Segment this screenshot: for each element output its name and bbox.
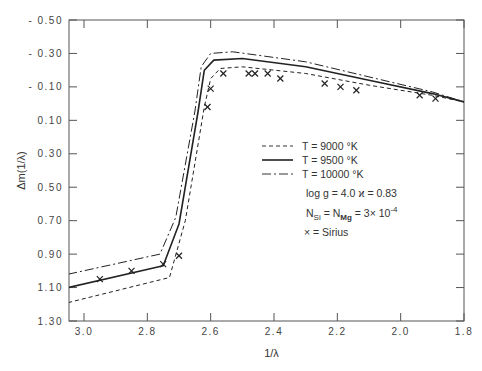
sirius-marker xyxy=(176,253,182,259)
y-tick-label: 1.10 xyxy=(38,282,63,293)
legend: T = 9000 °K T = 9500 °K T = 10000 °K log… xyxy=(262,140,398,238)
chart: - 0.50- 0.30- 0.100.100.300.500.700.901.… xyxy=(0,0,482,371)
y-tick-label: - 0.10 xyxy=(28,81,63,92)
sirius-marker xyxy=(246,71,252,77)
sirius-marker xyxy=(205,104,211,110)
x-tick-label: 2.4 xyxy=(265,326,283,337)
sirius-marker xyxy=(417,92,423,98)
y-tick-label: 0.90 xyxy=(38,249,63,260)
legend-params: log g = 4.0 ϰ = 0.83 xyxy=(306,187,397,199)
plot-frame xyxy=(69,20,464,321)
sirius-marker xyxy=(265,71,271,77)
legend-label-9500: T = 9500 °K xyxy=(302,154,358,166)
series-line xyxy=(68,52,464,274)
sirius-marker xyxy=(338,84,344,90)
y-tick-label: 0.70 xyxy=(38,215,63,226)
series-line xyxy=(68,59,464,288)
x-tick-label: 2.8 xyxy=(138,326,156,337)
y-tick-label: - 0.50 xyxy=(28,15,63,26)
x-tick-label: 2.6 xyxy=(201,326,219,337)
y-tick-label: - 0.30 xyxy=(28,48,63,59)
x-tick-label: 1.8 xyxy=(455,326,473,337)
x-axis-label: 1/λ xyxy=(264,347,279,359)
x-tick-label: 2.0 xyxy=(391,326,409,337)
x-tick-label: 3.0 xyxy=(75,326,93,337)
legend-label-9000: T = 9000 °K xyxy=(302,140,358,152)
legend-abundance: NSi = NMg = 3× 10-4 xyxy=(306,205,398,222)
sirius-marker xyxy=(277,76,283,82)
sirius-marker xyxy=(220,71,226,77)
y-tick-label: 0.10 xyxy=(38,115,63,126)
y-tick-label: 0.30 xyxy=(38,148,63,159)
axes: - 0.50- 0.30- 0.100.100.300.500.700.901.… xyxy=(15,15,473,360)
sirius-marker xyxy=(252,71,258,77)
y-axis-label: Δm(1/λ) xyxy=(15,151,27,190)
legend-sirius: × = Sirius xyxy=(304,226,348,238)
y-tick-label: 0.50 xyxy=(38,182,63,193)
sirius-marker xyxy=(353,87,359,93)
curves xyxy=(68,52,464,303)
y-tick-label: 1.30 xyxy=(38,316,63,327)
sirius-marker xyxy=(322,81,328,87)
legend-label-10000: T = 10000 °K xyxy=(302,168,364,180)
x-tick-label: 2.2 xyxy=(328,326,346,337)
series-line xyxy=(68,67,464,303)
sirius-marker xyxy=(433,96,439,102)
